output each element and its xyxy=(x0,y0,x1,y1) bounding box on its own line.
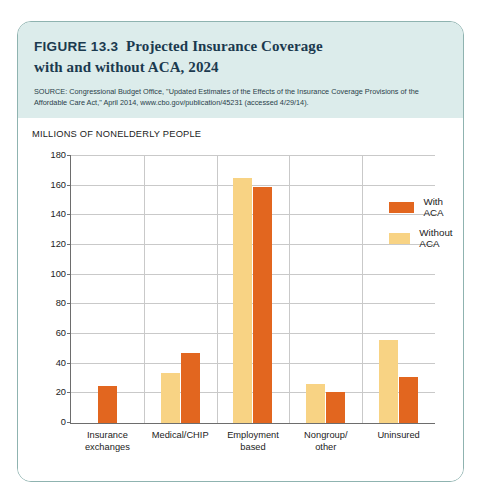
legend-swatch-with-aca xyxy=(389,202,414,213)
figure-title-line1: Projected Insurance Coverage xyxy=(126,38,323,54)
category-line-1: Employment xyxy=(227,430,279,440)
y-tick-label: 160 xyxy=(50,180,66,190)
bar-with-aca xyxy=(98,386,117,423)
bar-without-aca xyxy=(379,340,398,423)
y-tick-label: 20 xyxy=(56,387,66,397)
bar-without-aca xyxy=(233,178,252,423)
bar-without-aca xyxy=(306,384,325,423)
y-tick-label: 60 xyxy=(56,328,66,338)
y-tick-label: 180 xyxy=(50,150,66,160)
y-tick-label: 100 xyxy=(50,269,66,279)
figure-title: FIGURE 13.3 Projected Insurance Coverage… xyxy=(34,36,447,78)
bar-with-aca xyxy=(253,187,272,423)
figure-card: FIGURE 13.3 Projected Insurance Coverage… xyxy=(17,21,464,482)
y-tick-label: 80 xyxy=(56,298,66,308)
bar-group-nongroup-other: Nongroup/ other xyxy=(289,156,362,423)
category-line-1: Uninsured xyxy=(377,430,419,440)
category-line-2: other xyxy=(315,442,336,452)
x-axis-category-label: Insurance exchanges xyxy=(71,430,144,453)
bar-with-aca xyxy=(326,392,345,423)
x-axis-category-label: Medical/CHIP xyxy=(144,430,217,442)
figure-header-band: FIGURE 13.3 Projected Insurance Coverage… xyxy=(18,22,463,118)
chart-area: MILLIONS OF NONELDERLY PEOPLE 180 160 14… xyxy=(18,118,463,482)
legend-item-without-aca: Without ACA xyxy=(389,227,460,249)
bar-group-insurance-exchanges: Insurance exchanges xyxy=(71,156,144,423)
figure-source: SOURCE: Congressional Budget Office, "Up… xyxy=(34,87,447,108)
y-tick-label: 40 xyxy=(56,358,66,368)
x-axis-category-label: Nongroup/ other xyxy=(289,430,362,453)
x-axis-category-label: Uninsured xyxy=(362,430,435,442)
plot-wrapper: 180 160 140 120 100 xyxy=(32,156,453,482)
category-line-1: Insurance xyxy=(87,430,128,440)
category-line-1: Medical/CHIP xyxy=(152,430,209,440)
bar-group-employment-based: Employment based xyxy=(217,156,290,423)
legend-item-with-aca: With ACA xyxy=(389,196,460,218)
figure-title-line2: with and without ACA, 2024 xyxy=(34,59,219,75)
bar-with-aca xyxy=(399,377,418,423)
legend-label-with-aca: With ACA xyxy=(423,196,460,218)
legend-swatch-without-aca xyxy=(389,233,410,244)
plot-area: 180 160 140 120 100 xyxy=(70,156,435,424)
y-axis-unit-label: MILLIONS OF NONELDERLY PEOPLE xyxy=(32,129,201,139)
x-axis-category-label: Employment based xyxy=(217,430,290,453)
bar-without-aca xyxy=(161,373,180,423)
y-tick-label: 0 xyxy=(61,417,66,427)
chart-legend: With ACA Without ACA xyxy=(389,196,460,258)
category-line-1: Nongroup/ xyxy=(304,430,347,440)
y-tick-label: 140 xyxy=(50,209,66,219)
bar-with-aca xyxy=(181,353,200,423)
figure-label: FIGURE 13.3 xyxy=(34,39,118,54)
y-tick-label: 120 xyxy=(50,239,66,249)
legend-label-without-aca: Without ACA xyxy=(419,227,460,249)
bar-group-medical-chip: Medical/CHIP xyxy=(144,156,217,423)
category-line-2: exchanges xyxy=(85,442,130,452)
category-line-2: based xyxy=(240,442,265,452)
